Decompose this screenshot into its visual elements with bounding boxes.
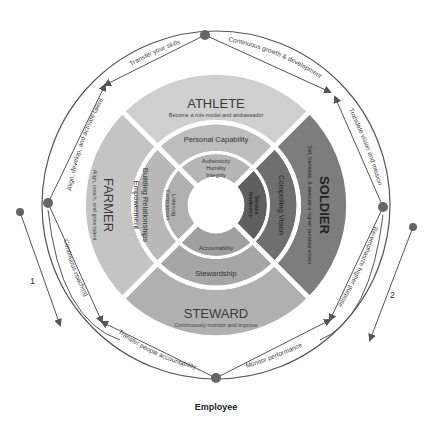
athlete-subtitle: Become a role model and ambassador	[169, 112, 264, 118]
node-bottom	[211, 373, 221, 383]
accountability-label: Accountability	[199, 245, 233, 251]
compelling-vision-label: Compelling Vision	[277, 175, 286, 235]
steward-title: STEWARD	[184, 306, 249, 321]
humility-label: Humility	[206, 165, 226, 171]
center-circle	[188, 177, 244, 233]
farmer-title: FARMER	[101, 178, 116, 232]
integrity-label: Integrity	[206, 172, 226, 178]
node-left	[43, 198, 53, 208]
arrow-label-monitor-performance: Monitor performance	[245, 341, 304, 369]
empowerment-label: Empowerment	[132, 181, 141, 230]
arrow-label-continuous-coaching: Continuous coaching	[63, 238, 91, 297]
farmer-subtitle: Align, coach, and grow talent	[92, 170, 98, 241]
steward-subtitle: Continuously monitor and improve	[174, 322, 257, 328]
side-number-2: 2	[390, 290, 395, 300]
leadership-label: leadership	[248, 192, 254, 217]
side-number-1: 1	[30, 276, 35, 286]
employee-label: Employee	[195, 402, 238, 412]
compassion-label: Compassion	[165, 190, 171, 221]
building-relationships-label: Building Relationships	[141, 168, 150, 242]
arrow-label-translate-vision: Translate vision and mission	[348, 107, 384, 187]
athlete-title: ATHLETE	[187, 96, 245, 111]
stewardship-label: Stewardship	[195, 269, 236, 278]
soldier-title: SOLDIER	[317, 176, 332, 234]
authenticity-label: Authenticity	[202, 158, 231, 164]
node-right	[378, 202, 388, 212]
arrow-label-transfer-accountability: Transfer people accountability	[117, 328, 198, 371]
node-top	[200, 30, 210, 40]
leadership-diagram: ATHLETE Become a role model and ambassad…	[0, 0, 432, 426]
personal-capability-label: Personal Capability	[184, 135, 249, 144]
soldier-subtitle: Set, translate, & execute a higher purpo…	[307, 146, 313, 264]
